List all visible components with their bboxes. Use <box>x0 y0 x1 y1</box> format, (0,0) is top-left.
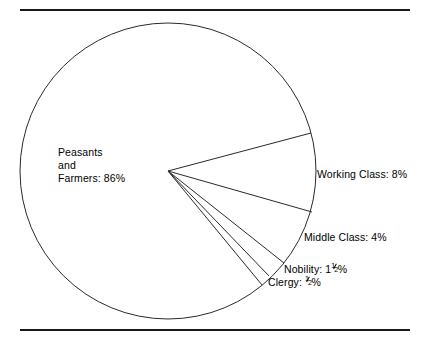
slice-label-middle-class: Middle Class: 4% <box>304 231 387 244</box>
divider-middle-nobility <box>168 171 284 263</box>
fraction-denominator: 2 <box>308 277 312 290</box>
slice-label-clergy: Clergy: 12% <box>268 275 321 289</box>
divider-nobility-clergy <box>168 171 269 276</box>
slice-label-peasants-line-1: Peasants <box>58 146 125 159</box>
fraction-one-half-clergy: 12 <box>305 275 312 286</box>
slice-label-peasants-line-2: and <box>58 159 125 172</box>
divider-clergy-peasants <box>168 171 262 285</box>
slice-label-nobility-suffix: % <box>338 263 347 275</box>
slice-label-nobility: Nobility: 112% <box>284 262 347 276</box>
pie-chart-figure: Peasants and Farmers: 86% Working Class:… <box>0 0 430 343</box>
divider-peasants-working <box>168 133 311 171</box>
slice-label-clergy-suffix: % <box>311 276 320 288</box>
fraction-one-half-nobility: 12 <box>331 262 338 273</box>
divider-working-middle <box>168 171 312 212</box>
slice-label-clergy-text: Clergy: <box>268 276 305 288</box>
fraction-denominator: 2 <box>334 264 338 277</box>
slice-label-peasants-line-3: Farmers: 86% <box>58 172 125 185</box>
slice-label-working-class: Working Class: 8% <box>317 168 407 181</box>
slice-label-peasants: Peasants and Farmers: 86% <box>58 146 125 185</box>
